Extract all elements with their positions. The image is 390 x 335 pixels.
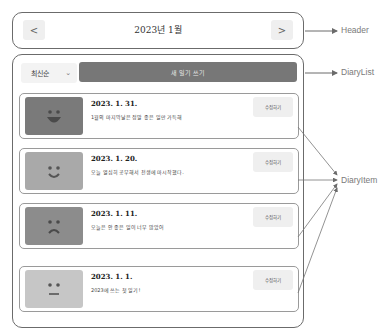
diary-date: 2023. 1. 20. (91, 154, 137, 163)
sort-select-value: 최신순 (31, 68, 49, 78)
sort-select[interactable]: 최신순 ⌄ (21, 63, 77, 83)
diary-content: 2023에 쓰는 첫 일기! (91, 286, 141, 293)
diary-date: 2023. 1. 31. (91, 99, 137, 108)
diary-item[interactable]: 2023. 1. 11. 오늘은 안 좋은 일이 너무 많았어 수정하기 (19, 203, 299, 249)
edit-button[interactable]: 수정하기 (253, 207, 293, 227)
header: < 2023년 1월 > (12, 12, 304, 49)
header-title: 2023년 1월 (13, 23, 303, 36)
diary-date: 2023. 1. 1. (91, 272, 132, 281)
diarylist-annotation-label: DiaryList (341, 67, 374, 77)
diary-date: 2023. 1. 11. (91, 209, 137, 218)
diary-item[interactable]: 2023. 1. 1. 2023에 쓰는 첫 일기! 수정하기 (19, 266, 299, 312)
edit-button[interactable]: 수정하기 (253, 152, 293, 172)
very-happy-emotion-icon[interactable] (25, 97, 83, 135)
diary-item[interactable]: 2023. 1. 20. 오늘 열심히 공부해서 전생에 마시작했다. 수정하기 (19, 148, 299, 194)
diaryitem-annotation-label: DiaryItem (341, 175, 377, 185)
edit-button[interactable]: 수정하기 (253, 97, 293, 117)
happy-emotion-icon[interactable] (25, 152, 83, 190)
diary-content: 오늘은 안 좋은 일이 너무 많았어 (91, 223, 164, 230)
next-month-button[interactable]: > (271, 20, 293, 40)
edit-button[interactable]: 수정하기 (253, 270, 293, 290)
diary-item[interactable]: 2023. 1. 31. 1월의 마지막날은 정말 좋은 일만 가득해 수정하기 (19, 93, 299, 139)
diary-list: 최신순 ⌄ 새 일기 쓰기 2023. 1. 31. 1월의 마지막날은 정말 … (12, 54, 304, 328)
diary-content: 1월의 마지막날은 정말 좋은 일만 가득해 (91, 113, 182, 120)
sad-emotion-icon[interactable] (25, 207, 83, 245)
new-diary-button[interactable]: 새 일기 쓰기 (79, 62, 297, 82)
chevron-right-icon: > (278, 25, 286, 36)
diary-content: 오늘 열심히 공부해서 전생에 마시작했다. (91, 168, 184, 175)
chevron-down-icon: ⌄ (65, 69, 71, 77)
neutral-emotion-icon[interactable] (25, 270, 83, 308)
header-annotation-label: Header (341, 25, 369, 35)
